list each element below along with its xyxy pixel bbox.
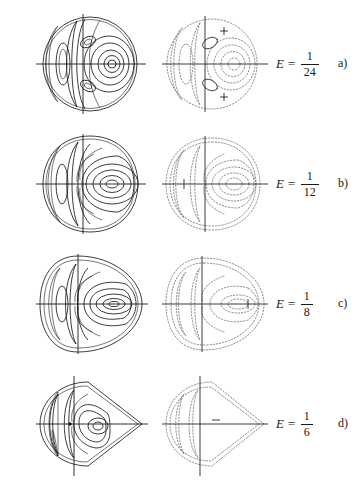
panel-a-dotted (160, 4, 272, 124)
panel-b-solid (30, 124, 158, 244)
panel-b-dotted (160, 124, 272, 244)
equals-sign-d: = (287, 416, 296, 432)
axis-cross-d-dotted (162, 376, 268, 476)
panel-letter-b: b) (338, 176, 348, 191)
fraction-numerator-a: 1 (304, 50, 316, 64)
energy-fraction-d: 1 6 (301, 410, 313, 438)
energy-label-a: E = 1 24 (276, 48, 319, 80)
energy-label-b: E = 1 12 (276, 168, 319, 200)
contour-figure: E = 1 24 a) (0, 0, 363, 490)
axis-cross-c-dotted (162, 256, 268, 352)
energy-symbol-a: E (276, 56, 284, 72)
panel-letter-d: d) (338, 416, 348, 431)
axis-cross-b-dotted (162, 136, 268, 232)
energy-fraction-b: 1 12 (301, 170, 319, 198)
figure-row-d: E = 1 6 d) (0, 364, 363, 484)
energy-symbol-c: E (276, 296, 284, 312)
cropped-caption-strip (4, 481, 359, 490)
axis-cross-c (36, 254, 148, 354)
panel-c-solid (30, 244, 158, 364)
energy-label-c: E = 1 8 (276, 288, 313, 320)
equals-sign-c: = (287, 296, 296, 312)
figure-row-c: E = 1 8 c) (0, 244, 363, 364)
energy-symbol-b: E (276, 176, 284, 192)
panel-d-dotted (160, 364, 272, 484)
figure-row-b: E = 1 12 b) (0, 124, 363, 244)
axis-cross-b (36, 134, 146, 234)
axis-cross-a-dotted (162, 16, 268, 112)
equals-sign-b: = (287, 176, 296, 192)
energy-symbol-d: E (276, 416, 284, 432)
figure-row-a: E = 1 24 a) (0, 4, 363, 124)
panel-d-solid (30, 364, 158, 484)
energy-label-d: E = 1 6 (276, 408, 313, 440)
axis-cross-a (36, 14, 146, 114)
fraction-numerator-b: 1 (304, 170, 316, 184)
panel-letter-c: c) (338, 296, 347, 311)
fraction-numerator-c: 1 (301, 290, 313, 304)
fraction-denominator-a: 24 (301, 64, 319, 79)
energy-fraction-a: 1 24 (301, 50, 319, 78)
fraction-numerator-d: 1 (301, 410, 313, 424)
equals-sign-a: = (287, 56, 296, 72)
fraction-denominator-d: 6 (301, 424, 313, 439)
panel-a-solid (30, 4, 158, 124)
panel-letter-a: a) (338, 56, 347, 71)
fraction-denominator-b: 12 (301, 184, 319, 199)
energy-fraction-c: 1 8 (301, 290, 313, 318)
panel-c-dotted (160, 244, 272, 364)
fraction-denominator-c: 8 (301, 304, 313, 319)
